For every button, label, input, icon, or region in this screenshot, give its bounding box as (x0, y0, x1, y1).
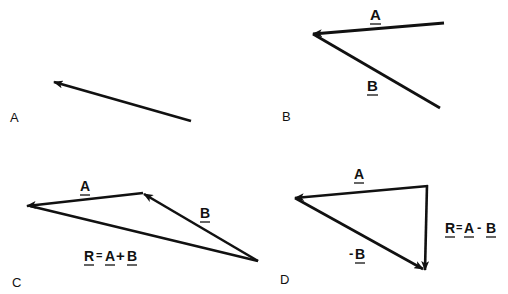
panel-label-a: A (10, 110, 19, 125)
panel-a: A (10, 82, 191, 125)
panel-label-b: B (282, 109, 291, 124)
eq-minus: - (477, 220, 481, 235)
panel-c: A B R = A + B C (12, 178, 258, 290)
minus-sign: - (349, 246, 353, 261)
vector-b-label: B (367, 77, 378, 94)
vector-b-label: B (200, 205, 210, 221)
eq-plus: + (116, 247, 125, 264)
equation-r-equals-a-minus-b: R = A - B (445, 220, 496, 237)
eq-b: B (127, 248, 137, 264)
eq-a: A (464, 220, 474, 236)
vector-r-arrow (425, 185, 427, 270)
eq-r: R (445, 220, 455, 236)
vector-a-arrow (295, 186, 428, 198)
eq-r: R (84, 248, 94, 264)
eq-equals: = (456, 221, 462, 233)
vector-a-label: A (80, 178, 90, 194)
panel-b: A B B (282, 6, 444, 124)
vector-a-label: A (354, 166, 364, 182)
panel-d: A - B R = A - B D (280, 166, 496, 287)
eq-equals: = (96, 249, 102, 261)
vector-a-arrow (54, 82, 191, 121)
panel-label-c: C (12, 275, 21, 290)
equation-r-equals-a-plus-b: R = A + B (84, 247, 137, 265)
panel-label-d: D (280, 272, 289, 287)
vector-r-arrow (30, 206, 258, 261)
vector-minus-b-label: B (355, 246, 365, 262)
vector-a-label: A (370, 6, 381, 23)
vector-diagram: A A B B A B R = A + B C (0, 0, 508, 294)
vector-b-arrow (313, 34, 440, 108)
eq-a: A (105, 248, 115, 264)
eq-b: B (486, 220, 496, 236)
